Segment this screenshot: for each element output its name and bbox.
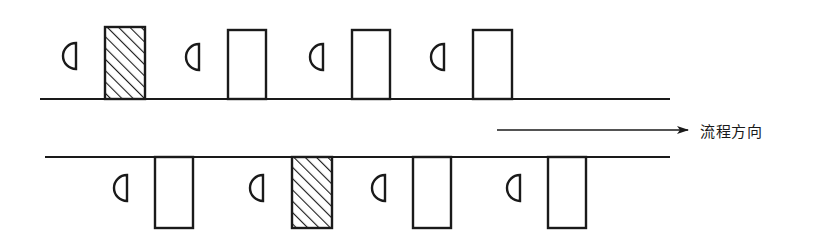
station-box-hatched xyxy=(292,157,332,228)
station-box xyxy=(352,30,390,99)
flow-direction-label: 流程方向 xyxy=(700,120,762,141)
upper-station-2 xyxy=(186,30,266,99)
upper-station-row xyxy=(63,27,512,99)
station-box xyxy=(155,157,193,228)
station-box-hatched xyxy=(105,27,145,99)
station-box xyxy=(548,157,586,228)
upper-station-4 xyxy=(431,30,512,99)
station-box xyxy=(228,30,266,99)
lower-station-row xyxy=(114,157,586,228)
upper-station-3 xyxy=(310,30,390,99)
half-disc-marker xyxy=(114,175,127,201)
station-box xyxy=(413,157,451,228)
lower-station-2 xyxy=(250,157,332,228)
upper-station-1 xyxy=(63,27,145,99)
diagram-canvas xyxy=(0,0,818,249)
half-disc-marker xyxy=(250,175,263,201)
station-box xyxy=(473,30,512,99)
lower-station-1 xyxy=(114,157,193,228)
half-disc-marker xyxy=(431,44,444,70)
lower-station-3 xyxy=(372,157,451,228)
half-disc-marker xyxy=(372,175,385,201)
process-flow-diagram: 流程方向 xyxy=(0,0,818,249)
lower-station-4 xyxy=(507,157,586,228)
half-disc-marker xyxy=(507,175,520,201)
half-disc-marker xyxy=(63,43,76,69)
half-disc-marker xyxy=(186,44,199,70)
half-disc-marker xyxy=(310,44,323,70)
